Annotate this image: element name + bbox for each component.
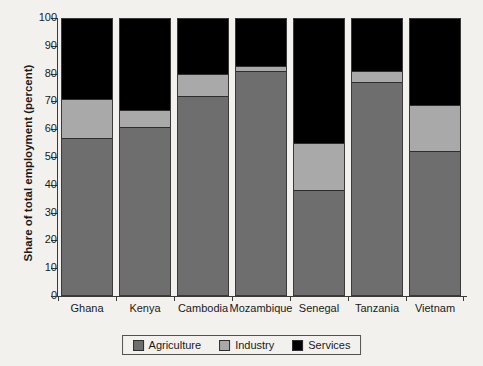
y-axis-tick: 40 [0, 185, 57, 186]
y-axis-tick: 30 [0, 213, 57, 214]
bar-group[interactable] [351, 18, 403, 296]
bar-group[interactable] [293, 18, 345, 296]
bar-segment-services [410, 19, 460, 105]
bar-segment-agriculture [120, 127, 170, 295]
y-axis-tick: 90 [0, 46, 57, 47]
bar-segment-services [178, 19, 228, 74]
y-axis-tick-label: 40 [13, 178, 57, 190]
legend-label: Industry [235, 339, 274, 351]
y-axis-tick-label: 100 [13, 11, 57, 23]
y-axis-title: Share of total employment (percent) [22, 43, 34, 283]
y-axis-tick-label: 60 [13, 122, 57, 134]
x-axis-label-ghana: Ghana [70, 302, 103, 314]
bar-segment-agriculture [352, 82, 402, 295]
bar-segment-agriculture [294, 190, 344, 295]
bar-segment-agriculture [178, 96, 228, 295]
legend-item-services[interactable]: Services [292, 339, 350, 351]
y-axis-tick: 80 [0, 74, 57, 75]
x-axis-label-senegal: Senegal [299, 302, 339, 314]
legend-swatch-icon [292, 340, 303, 351]
bar-segment-services [236, 19, 286, 66]
y-axis-tick: 0 [0, 296, 57, 297]
x-axis-tick-mark [348, 296, 349, 301]
bar-group[interactable] [409, 18, 461, 296]
bar-segment-services [120, 19, 170, 110]
x-axis-line [52, 296, 467, 297]
bar-segment-industry [352, 71, 402, 82]
y-axis-tick-label: 70 [13, 94, 57, 106]
x-axis-tick-mark [290, 296, 291, 301]
legend-swatch-icon [133, 340, 144, 351]
bar-group[interactable] [61, 18, 113, 296]
bar-segment-agriculture [62, 138, 112, 295]
x-axis-label-cambodia: Cambodia [178, 302, 228, 314]
x-axis-label-vietnam: Vietnam [415, 302, 455, 314]
bar-segment-agriculture [236, 71, 286, 295]
x-axis-label-tanzania: Tanzania [355, 302, 399, 314]
x-axis-tick-mark [174, 296, 175, 301]
bar-segment-industry [62, 99, 112, 138]
bar-segment-industry [410, 105, 460, 152]
legend-swatch-icon [219, 340, 230, 351]
x-axis-tick-mark [232, 296, 233, 301]
bar-segment-industry [294, 143, 344, 190]
bar-group[interactable] [177, 18, 229, 296]
bar-segment-services [294, 19, 344, 143]
chart-legend: AgricultureIndustryServices [122, 335, 362, 355]
bar-segment-services [352, 19, 402, 71]
legend-item-industry[interactable]: Industry [219, 339, 274, 351]
x-axis-label-mozambique: Mozambique [230, 302, 293, 314]
bar-segment-services [62, 19, 112, 99]
y-axis-tick-label: 0 [13, 289, 57, 301]
y-axis-tick: 60 [0, 129, 57, 130]
legend-label: Agriculture [149, 339, 202, 351]
x-axis-tick-mark [58, 296, 59, 301]
plot-area [58, 18, 464, 296]
y-axis-tick: 100 [0, 18, 57, 19]
y-axis-tick: 20 [0, 240, 57, 241]
x-axis-tick-mark [116, 296, 117, 301]
chart-page: Share of total employment (percent) 0102… [0, 0, 483, 366]
y-axis-tick-label: 10 [13, 261, 57, 273]
y-axis-tick: 70 [0, 101, 57, 102]
bar-group[interactable] [119, 18, 171, 296]
bar-segment-industry [120, 110, 170, 127]
y-axis-tick: 50 [0, 157, 57, 158]
y-axis-tick-label: 90 [13, 39, 57, 51]
y-axis-tick-label: 80 [13, 67, 57, 79]
bar-group[interactable] [235, 18, 287, 296]
legend-label: Services [308, 339, 350, 351]
bar-segment-agriculture [410, 151, 460, 295]
y-axis-tick-label: 30 [13, 206, 57, 218]
x-axis-label-kenya: Kenya [129, 302, 160, 314]
y-axis-tick-label: 20 [13, 233, 57, 245]
y-axis-tick-label: 50 [13, 150, 57, 162]
legend-item-agriculture[interactable]: Agriculture [133, 339, 202, 351]
y-axis-tick: 10 [0, 268, 57, 269]
x-axis-tick-mark [463, 296, 464, 301]
bar-segment-industry [178, 74, 228, 96]
x-axis-tick-mark [406, 296, 407, 301]
